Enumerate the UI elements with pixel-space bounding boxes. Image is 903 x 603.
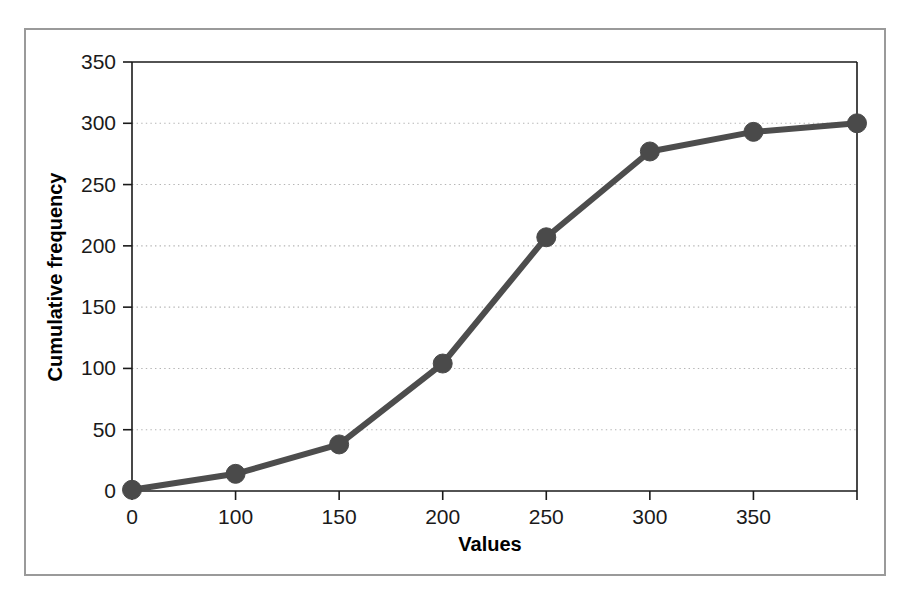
data-point-350	[744, 122, 763, 141]
x-tick-label-200: 200	[425, 505, 460, 528]
x-tick-label-100: 100	[218, 505, 253, 528]
data-point-last	[848, 114, 867, 133]
figure-root: 050100150200250300350 010015020025030035…	[0, 0, 903, 603]
data-point-200	[433, 354, 452, 373]
x-axis-tick-labels: 0100150200250300350	[126, 505, 771, 528]
y-axis-tick-labels: 050100150200250300350	[81, 50, 116, 502]
series-line-cumulative-frequency	[132, 123, 857, 489]
y-tick-label-0: 0	[104, 479, 116, 502]
y-axis-title: Cumulative frequency	[44, 172, 66, 382]
y-tick-label-150: 150	[81, 295, 116, 318]
y-tick-label-250: 250	[81, 173, 116, 196]
y-tick-label-350: 350	[81, 50, 116, 73]
data-point-100	[226, 464, 245, 483]
x-tick-label-350: 350	[736, 505, 771, 528]
x-tick-label-150: 150	[322, 505, 357, 528]
y-tick-label-300: 300	[81, 111, 116, 134]
gridlines-group	[132, 123, 857, 429]
data-point-150	[330, 435, 349, 454]
series-markers	[123, 114, 867, 499]
data-point-250	[537, 228, 556, 247]
cumulative-frequency-line-chart: 050100150200250300350 010015020025030035…	[0, 0, 903, 603]
y-tick-label-100: 100	[81, 356, 116, 379]
data-point-0	[123, 480, 142, 499]
x-axis-title: Values	[458, 533, 521, 555]
data-point-300	[640, 142, 659, 161]
x-axis-ticks	[132, 491, 857, 500]
x-tick-label-300: 300	[632, 505, 667, 528]
x-tick-label-250: 250	[529, 505, 564, 528]
y-tick-label-200: 200	[81, 234, 116, 257]
y-tick-label-50: 50	[93, 418, 116, 441]
x-tick-label-0: 0	[126, 505, 138, 528]
y-axis-ticks	[123, 62, 132, 491]
